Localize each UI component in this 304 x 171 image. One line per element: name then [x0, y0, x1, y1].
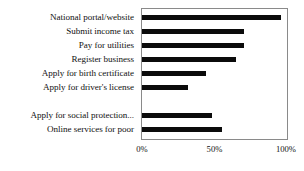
- x-tick-label-50: 50%: [207, 144, 223, 154]
- bar-online-services-for-poor: [142, 127, 222, 132]
- bar-apply-for-drivers-license: [142, 85, 188, 90]
- x-tick-label-100: 100%: [276, 144, 296, 154]
- bar-apply-for-social-protection: [142, 113, 212, 118]
- category-label-register-business: Register business: [0, 54, 134, 64]
- bar-apply-for-birth-certificate: [142, 71, 206, 76]
- bar-pay-for-utilities: [142, 43, 244, 48]
- category-label-online-services-for-poor: Online services for poor: [0, 124, 134, 134]
- category-label-submit-income-tax: Submit income tax: [0, 26, 134, 36]
- plot-area: [141, 8, 288, 140]
- x-tick-label-0: 0%: [136, 144, 147, 154]
- bar-register-business: [142, 57, 236, 62]
- x-axis: 0% 50% 100%: [141, 141, 288, 161]
- category-label-national-portal-website: National portal/website: [0, 12, 134, 22]
- bars-container: [142, 9, 287, 139]
- category-label-pay-for-utilities: Pay for utilities: [0, 40, 134, 50]
- category-label-apply-for-birth-certificate: Apply for birth certificate: [0, 68, 134, 78]
- category-label-apply-for-social-protection: Apply for social protection...: [0, 110, 134, 120]
- bar-chart: National portal/website Submit income ta…: [0, 0, 304, 171]
- category-axis-labels: National portal/website Submit income ta…: [0, 8, 137, 140]
- bar-national-portal-website: [142, 15, 281, 20]
- category-label-apply-for-drivers-license: Apply for driver's license: [0, 82, 134, 92]
- bar-submit-income-tax: [142, 29, 244, 34]
